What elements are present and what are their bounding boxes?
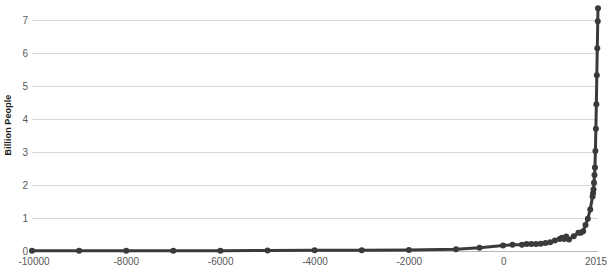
- data-point-marker: [29, 248, 35, 254]
- data-point-marker: [500, 242, 506, 248]
- y-tick-label: 1: [4, 212, 28, 223]
- data-point-marker: [312, 247, 318, 253]
- data-point-marker: [76, 248, 82, 254]
- x-tick-label: -8000: [114, 256, 140, 267]
- data-point-marker: [593, 101, 599, 107]
- data-point-marker: [594, 72, 600, 78]
- data-point-marker: [265, 248, 271, 254]
- y-tick-label: 5: [4, 80, 28, 91]
- x-axis-tick-labels: -10000-8000-6000-4000-200002015: [32, 256, 598, 274]
- y-tick-label: 7: [4, 14, 28, 25]
- data-point-marker: [595, 18, 601, 24]
- data-point-marker: [593, 126, 599, 132]
- plot-area: [32, 0, 598, 251]
- data-point-marker: [591, 187, 597, 193]
- y-tick-label: 2: [4, 179, 28, 190]
- data-point-marker: [406, 247, 412, 253]
- x-tick-label: -2000: [397, 256, 423, 267]
- data-point-marker: [510, 242, 516, 248]
- data-point-marker: [591, 172, 597, 178]
- data-point-marker: [123, 248, 129, 254]
- data-point-marker: [580, 228, 586, 234]
- x-tick-label: 0: [501, 256, 507, 267]
- data-point-marker: [453, 246, 459, 252]
- data-point-marker: [587, 206, 593, 212]
- data-point-marker: [359, 247, 365, 253]
- series-line: [32, 0, 598, 251]
- data-point-marker: [217, 248, 223, 254]
- data-point-marker: [170, 248, 176, 254]
- y-tick-label: 3: [4, 146, 28, 157]
- data-point-marker: [591, 180, 597, 186]
- data-point-marker: [594, 45, 600, 51]
- data-point-marker: [595, 5, 601, 11]
- y-tick-label: 4: [4, 113, 28, 124]
- y-tick-label: 0: [4, 246, 28, 257]
- x-tick-label: 2015: [585, 256, 607, 267]
- data-point-marker: [592, 164, 598, 170]
- x-tick-label: -10000: [18, 256, 49, 267]
- data-point-marker: [583, 222, 589, 228]
- data-point-marker: [477, 245, 483, 251]
- x-tick-label: -6000: [208, 256, 234, 267]
- data-point-marker: [585, 216, 591, 222]
- x-tick-label: -4000: [302, 256, 328, 267]
- y-tick-label: 6: [4, 47, 28, 58]
- series-path: [32, 8, 598, 251]
- data-point-marker: [592, 148, 598, 154]
- y-axis-tick-labels: 01234567: [0, 0, 28, 251]
